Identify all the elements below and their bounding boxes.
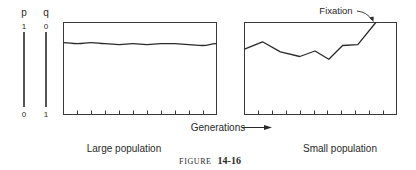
- fixation-label: Fixation: [319, 5, 352, 16]
- figure-caption: FIGURE 14-16: [179, 155, 241, 166]
- p-label: p: [21, 7, 27, 18]
- generations-label: Generations: [191, 122, 245, 133]
- small-population-frame: [245, 23, 397, 115]
- fixation-pointer-line: [357, 11, 372, 20]
- caption-number: 14-16: [218, 155, 241, 166]
- small-population-frequency-line: [245, 23, 376, 60]
- large-population-label: Large population: [87, 143, 162, 154]
- q-top-value: 0: [44, 22, 49, 31]
- small-population-x-ticks: [259, 111, 384, 115]
- right-arrow-icon: [264, 125, 272, 130]
- caption-prefix: FIGURE: [179, 157, 212, 166]
- large-population-panel: Large population: [64, 23, 217, 155]
- large-population-frame: [64, 23, 217, 115]
- p-top-value: 1: [22, 22, 27, 31]
- generations-axis: Generations: [191, 122, 272, 133]
- large-population-x-ticks: [78, 111, 204, 115]
- q-bottom-value: 1: [44, 110, 49, 119]
- allele-frequency-scale: p q 1 0 0 1: [21, 7, 49, 119]
- figure-canvas: p q 1 0 0 1 Large population Small popul…: [0, 0, 416, 170]
- large-population-frequency-line: [64, 43, 217, 46]
- small-population-label: Small population: [303, 143, 377, 154]
- q-label: q: [43, 7, 49, 18]
- small-population-panel: Small population Fixation: [245, 5, 397, 154]
- p-bottom-value: 0: [22, 110, 27, 119]
